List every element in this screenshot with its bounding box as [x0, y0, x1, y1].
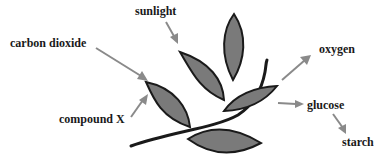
- label-compound-x: compound X: [59, 112, 125, 126]
- label-glucose: glucose: [307, 98, 345, 112]
- photosynthesis-diagram: sunlight carbon dioxide compound X oxyge…: [0, 0, 382, 166]
- arrow-starch: [333, 114, 346, 134]
- arrow-sunlight: [166, 22, 178, 44]
- arrow-compound-x: [131, 94, 148, 117]
- label-sunlight: sunlight: [135, 4, 176, 18]
- arrow-glucose: [278, 100, 304, 108]
- label-oxygen: oxygen: [319, 42, 355, 56]
- leaf-right: [224, 86, 277, 111]
- leaf-bottom: [188, 130, 261, 153]
- leaf-left: [146, 82, 190, 127]
- label-carbon-dioxide: carbon dioxide: [10, 36, 87, 50]
- arrow-oxygen: [282, 55, 311, 80]
- arrow-carbon-dioxide: [96, 48, 148, 81]
- leaf-upper-left: [180, 52, 224, 100]
- label-starch: starch: [342, 135, 374, 149]
- leaf-top: [224, 14, 243, 80]
